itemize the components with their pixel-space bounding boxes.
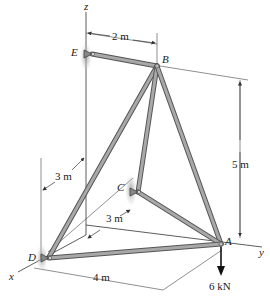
member-ba xyxy=(157,66,221,244)
joint-b xyxy=(155,64,159,68)
dimension-label-eb: 2 m xyxy=(112,30,129,42)
node-label-c: C xyxy=(117,181,125,193)
dimension-label-c-offset: 3 m xyxy=(106,212,123,224)
dimension-label-da: 4 m xyxy=(93,271,110,283)
dimension-label-height: 5 m xyxy=(232,158,249,170)
node-label-b: B xyxy=(162,53,169,65)
node-label-a: A xyxy=(224,235,232,247)
truss-diagram: z x y E B C D A 2 m 5 m 3 m 3 m 4 m 6 kN xyxy=(0,0,270,302)
z-axis-label: z xyxy=(83,0,89,12)
truss-members xyxy=(49,54,221,258)
member-ca xyxy=(138,192,221,244)
y-axis-label: y xyxy=(258,246,264,258)
dimension-label-d-offset: 3 m xyxy=(55,170,72,182)
load-arrow xyxy=(217,247,225,276)
node-label-e: E xyxy=(70,46,78,58)
member-eb xyxy=(92,54,157,66)
x-axis-label: x xyxy=(8,270,14,282)
y-axis xyxy=(86,225,262,247)
node-label-d: D xyxy=(27,251,36,263)
load-label: 6 kN xyxy=(209,280,231,292)
joint-a xyxy=(219,242,223,246)
member-da xyxy=(49,244,221,258)
